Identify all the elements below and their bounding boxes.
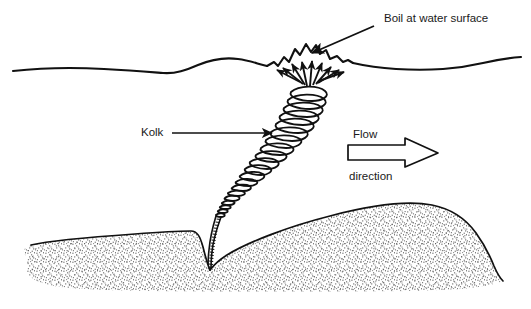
boil-leader-arrow: [312, 26, 374, 53]
flow-label-line2: direction: [349, 170, 392, 182]
kolk-label-group: Kolk: [141, 126, 272, 138]
flow-direction-arrow: [348, 138, 438, 167]
boil-label-group: Boil at water surface: [312, 12, 488, 53]
flow-label-line1: Flow: [353, 128, 378, 140]
sediment-bed: [24, 203, 503, 292]
kolk-label: Kolk: [141, 126, 164, 138]
boil-radiating-arrows: [277, 61, 344, 86]
diagram-canvas: Boil at water surface Kolk Flow directio…: [0, 0, 531, 309]
boil-mound: [267, 44, 353, 66]
boil-label: Boil at water surface: [384, 12, 488, 24]
kolk-vortex: [216, 87, 327, 217]
kolk-boil-diagram: Boil at water surface Kolk Flow directio…: [0, 0, 531, 309]
flow-direction-group: Flow direction: [348, 128, 438, 182]
